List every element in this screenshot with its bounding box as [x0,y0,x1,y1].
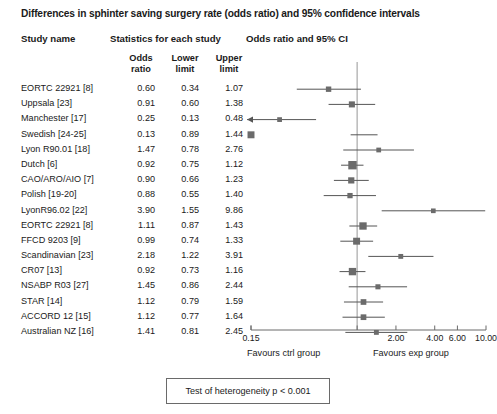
subheader-lower-limit-line2: limit [167,64,203,75]
odds-ratio-cell: 0.60 [117,83,155,93]
upper-limit-cell: 0.48 [205,113,243,123]
upper-limit-cell: 1.64 [205,311,243,321]
x-axis-tick-label: 6.00 [449,333,466,343]
x-axis-tick-label: 10.00 [475,333,497,343]
upper-limit-cell: 2.76 [205,144,243,154]
lower-limit-cell: 0.77 [161,311,199,321]
study-name-cell: CAO/ARO/AIO [7] [21,174,94,184]
study-name-cell: Polish [19-20] [21,189,77,199]
table-row: LyonR96.02 [22]3.901.559.86 [0,205,494,220]
study-name-cell: Dutch [6] [21,159,57,169]
study-name-cell: Scandinavian [23] [21,250,93,260]
axis-label-favours-experimental: Favours exp group [373,348,449,358]
upper-limit-cell: 1.07 [205,83,243,93]
upper-limit-cell: 2.44 [205,280,243,290]
column-header-statistics: Statistics for each study [110,33,221,44]
upper-limit-cell: 1.44 [205,129,243,139]
lower-limit-cell: 0.89 [161,129,199,139]
lower-limit-cell: 0.87 [161,220,199,230]
subheader-odds-ratio: Odds ratio [123,53,159,74]
study-name-cell: Manchester [17] [21,113,86,123]
upper-limit-cell: 1.59 [205,296,243,306]
lower-limit-cell: 1.22 [161,250,199,260]
table-row: STAR [14]1.120.791.59 [0,296,494,311]
table-row: CR07 [13]0.920.731.16 [0,265,494,280]
study-name-cell: Australian NZ [16] [21,326,94,336]
lower-limit-cell: 0.73 [161,265,199,275]
table-row: Lyon R90.01 [18]1.470.782.76 [0,144,494,159]
study-name-cell: Swedish [24-25] [21,129,86,139]
upper-limit-cell: 1.43 [205,220,243,230]
study-name-cell: EORTC 22921 [8] [21,220,93,230]
odds-ratio-cell: 1.45 [117,280,155,290]
study-name-cell: EORTC 22921 [8] [21,83,93,93]
upper-limit-cell: 1.33 [205,235,243,245]
column-header-study-name: Study name [21,33,75,44]
table-row: Scandinavian [23]2.181.223.91 [0,250,494,265]
odds-ratio-cell: 1.12 [117,311,155,321]
upper-limit-cell: 3.91 [205,250,243,260]
table-row: Polish [19-20]0.880.551.40 [0,189,494,204]
lower-limit-cell: 0.13 [161,113,199,123]
odds-ratio-cell: 1.47 [117,144,155,154]
odds-ratio-cell: 0.99 [117,235,155,245]
lower-limit-cell: 0.34 [161,83,199,93]
table-row: Swedish [24-25]0.130.891.44 [0,129,494,144]
upper-limit-cell: 1.12 [205,159,243,169]
study-name-cell: LyonR96.02 [22] [21,205,87,215]
lower-limit-cell: 1.55 [161,205,199,215]
x-axis-tick-label: 2.00 [387,333,404,343]
table-row: Dutch [6]0.920.751.12 [0,159,494,174]
lower-limit-cell: 0.81 [161,326,199,336]
lower-limit-cell: 0.74 [161,235,199,245]
study-table: EORTC 22921 [8]0.600.341.07Uppsala [23]0… [0,83,494,341]
odds-ratio-cell: 0.13 [117,129,155,139]
table-row: EORTC 22921 [8]1.110.871.43 [0,220,494,235]
lower-limit-cell: 0.66 [161,174,199,184]
odds-ratio-cell: 0.91 [117,98,155,108]
table-row: Manchester [17]0.250.130.48 [0,113,494,128]
odds-ratio-cell: 3.90 [117,205,155,215]
subheader-upper-limit-line1: Upper [211,53,247,64]
subheader-upper-limit-line2: limit [211,64,247,75]
x-axis-tick-label: 4.00 [426,333,443,343]
study-name-cell: Lyon R90.01 [18] [21,144,90,154]
table-row: FFCD 9203 [9]0.990.741.33 [0,235,494,250]
odds-ratio-cell: 1.12 [117,296,155,306]
odds-ratio-cell: 0.88 [117,189,155,199]
subheader-odds-ratio-line1: Odds [123,53,159,64]
study-name-cell: Uppsala [23] [21,98,72,108]
upper-limit-cell: 1.23 [205,174,243,184]
subheader-lower-limit: Lower limit [167,53,203,74]
odds-ratio-cell: 1.11 [117,220,155,230]
figure-title: Differences in sphinter saving surgery r… [21,8,420,19]
lower-limit-cell: 0.78 [161,144,199,154]
upper-limit-cell: 2.45 [205,326,243,336]
table-row: CAO/ARO/AIO [7]0.900.661.23 [0,174,494,189]
odds-ratio-cell: 0.25 [117,113,155,123]
study-name-cell: STAR [14] [21,296,62,306]
table-row: Uppsala [23]0.910.601.38 [0,98,494,113]
x-axis-tick-label: 0.15 [242,333,259,343]
lower-limit-cell: 0.60 [161,98,199,108]
odds-ratio-cell: 2.18 [117,250,155,260]
upper-limit-cell: 1.16 [205,265,243,275]
study-name-cell: ACCORD 12 [15] [21,311,91,321]
odds-ratio-cell: 1.41 [117,326,155,336]
heterogeneity-text: Test of heterogeneity p < 0.001 [167,386,329,396]
study-name-cell: CR07 [13] [21,265,62,275]
study-name-cell: FFCD 9203 [9] [21,235,81,245]
axis-label-favours-control: Favours ctrl group [247,348,320,358]
heterogeneity-box: Test of heterogeneity p < 0.001 [166,378,330,404]
table-row: NSABP R03 [27]1.450.862.44 [0,280,494,295]
upper-limit-cell: 9.86 [205,205,243,215]
odds-ratio-cell: 0.92 [117,159,155,169]
table-row: ACCORD 12 [15]1.120.771.64 [0,311,494,326]
subheader-lower-limit-line1: Lower [167,53,203,64]
subheader-upper-limit: Upper limit [211,53,247,74]
subheader-odds-ratio-line2: ratio [123,64,159,75]
lower-limit-cell: 0.79 [161,296,199,306]
odds-ratio-cell: 0.90 [117,174,155,184]
table-row: EORTC 22921 [8]0.600.341.07 [0,83,494,98]
